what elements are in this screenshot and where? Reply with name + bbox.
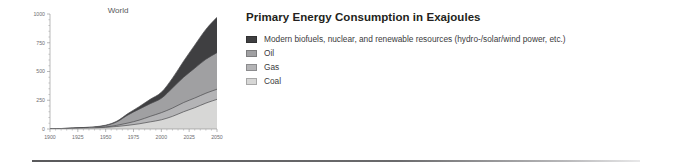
- y-axis-ticks: 02505007501000: [33, 11, 50, 132]
- x-tick-label: 2050: [211, 134, 223, 140]
- legend-label-oil: Oil: [264, 48, 274, 58]
- chart-canvas: World 02505007501000 1900192519501975200…: [0, 0, 228, 148]
- legend-item-renewables[interactable]: Modern biofuels, nuclear, and renewable …: [246, 32, 674, 46]
- bottom-divider: [32, 160, 640, 162]
- y-tick-label: 250: [36, 97, 45, 103]
- legend-swatch-oil: [246, 50, 257, 57]
- legend-label-gas: Gas: [264, 62, 279, 72]
- legend-item-gas[interactable]: Gas: [246, 60, 674, 74]
- x-tick-label: 1900: [44, 134, 56, 140]
- y-tick-label: 500: [36, 68, 45, 74]
- legend-label-coal: Coal: [264, 76, 281, 86]
- legend-swatch-coal: [246, 78, 257, 85]
- legend-swatch-renewables: [246, 36, 257, 43]
- legend-label-renewables: Modern biofuels, nuclear, and renewable …: [264, 34, 566, 44]
- x-axis-ticks: 1900192519501975200020252050: [44, 129, 223, 140]
- chart-figure: World 02505007501000 1900192519501975200…: [0, 0, 674, 167]
- chart-title: World: [108, 6, 129, 15]
- legend-item-oil[interactable]: Oil: [246, 46, 674, 60]
- y-tick-label: 1000: [33, 11, 45, 17]
- x-tick-label: 2000: [156, 134, 168, 140]
- x-tick-label: 1975: [128, 134, 140, 140]
- y-tick-label: 0: [42, 126, 45, 132]
- legend-title: Primary Energy Consumption in Exajoules: [246, 10, 674, 24]
- world-energy-area-chart: World 02505007501000 1900192519501975200…: [0, 0, 228, 148]
- x-tick-label: 1925: [72, 134, 84, 140]
- legend-item-coal[interactable]: Coal: [246, 74, 674, 88]
- legend-panel: Primary Energy Consumption in Exajoules …: [246, 10, 674, 88]
- x-tick-label: 1950: [100, 134, 112, 140]
- x-tick-label: 2025: [183, 134, 195, 140]
- legend-swatch-gas: [246, 64, 257, 71]
- y-tick-label: 750: [36, 40, 45, 46]
- legend-list: Modern biofuels, nuclear, and renewable …: [246, 32, 674, 88]
